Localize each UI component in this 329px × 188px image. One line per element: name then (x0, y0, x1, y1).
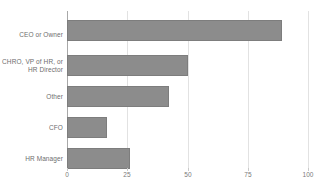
bar-row-other (67, 86, 169, 107)
x-tick-label-50: 50 (184, 171, 191, 178)
x-tick-label-25: 25 (123, 171, 130, 178)
bar-chart: CEO or Owner CHRO, VP of HR, or HR Direc… (0, 0, 329, 188)
bar-row-chro-vp-hr-director (67, 55, 188, 76)
category-label-line: CEO or Owner (0, 31, 63, 39)
category-label-line: Other (0, 93, 63, 101)
plot-area (67, 11, 308, 168)
category-axis-labels: CEO or Owner CHRO, VP of HR, or HR Direc… (0, 11, 63, 168)
bar-other (67, 86, 169, 107)
category-label-line: HR Manager (0, 155, 63, 163)
category-label-chro-vp-hr-director: CHRO, VP of HR, or HR Director (0, 58, 63, 74)
category-label-line: HR Director (0, 66, 63, 74)
category-label-line: CHRO, VP of HR, or (0, 58, 63, 66)
category-label-other: Other (0, 93, 63, 101)
bar-chro-vp-hr-director (67, 55, 188, 76)
bar-row-cfo (67, 117, 107, 138)
x-axis-tick-labels: 0 25 50 75 100 (0, 171, 329, 185)
gridline-100 (308, 11, 309, 168)
bar-row-ceo-or-owner (67, 20, 282, 41)
category-label-cfo: CFO (0, 124, 63, 132)
category-label-ceo-or-owner: CEO or Owner (0, 31, 63, 39)
x-tick-label-75: 75 (244, 171, 251, 178)
category-label-hr-manager: HR Manager (0, 155, 63, 163)
bar-hr-manager (67, 148, 130, 169)
bar-series (67, 11, 308, 168)
bar-row-hr-manager (67, 148, 130, 169)
category-label-line: CFO (0, 124, 63, 132)
x-tick-label-100: 100 (302, 171, 313, 178)
bar-ceo-or-owner (67, 20, 282, 41)
bar-cfo (67, 117, 107, 138)
x-tick-label-0: 0 (65, 171, 69, 178)
